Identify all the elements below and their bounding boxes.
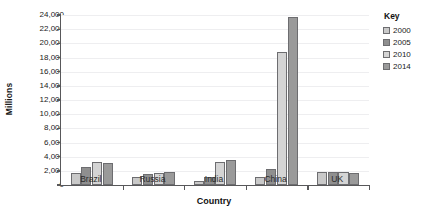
y-tick-mark — [57, 29, 61, 30]
x-category-label: Russia — [122, 174, 184, 184]
legend-items: 2000200520102014 — [383, 25, 428, 72]
legend-item-label: 2000 — [393, 27, 411, 35]
legend-swatch-icon — [383, 39, 390, 46]
legend-item: 2010 — [383, 49, 428, 60]
y-tick-mark — [57, 71, 61, 72]
bar — [288, 17, 298, 185]
legend-item-label: 2010 — [393, 51, 411, 59]
legend-item: 2000 — [383, 25, 428, 36]
y-tick-mark — [57, 43, 61, 44]
y-tick-mark — [57, 114, 61, 115]
y-tick-mark — [57, 170, 61, 171]
x-category-label: India — [183, 174, 245, 184]
legend-item-label: 2014 — [393, 63, 411, 71]
y-tick-mark — [57, 99, 61, 100]
y-tick-mark — [57, 142, 61, 143]
y-tick-mark — [57, 184, 61, 185]
x-axis-title: Country — [60, 196, 368, 206]
legend-item-label: 2005 — [393, 39, 411, 47]
x-tick-mark — [246, 185, 247, 190]
legend-title: Key — [383, 11, 428, 21]
y-tick-mark — [57, 128, 61, 129]
x-category-label: China — [245, 174, 307, 184]
legend-swatch-icon — [383, 27, 390, 34]
bar-group — [194, 15, 237, 185]
y-tick-mark — [57, 14, 61, 15]
plot-area — [60, 15, 369, 186]
bar-group — [132, 15, 175, 185]
clipped-chart-title — [34, 0, 234, 3]
x-tick-mark — [307, 185, 308, 190]
x-tick-mark — [369, 185, 370, 190]
y-tick-mark — [57, 57, 61, 58]
chart-legend: Key 2000200520102014 — [383, 11, 428, 73]
x-tick-mark — [123, 185, 124, 190]
x-tick-mark — [184, 185, 185, 190]
legend-swatch-icon — [383, 51, 390, 58]
bar-chart: Millions 02,0004,0006,0008,00010,00012,0… — [0, 0, 428, 224]
y-axis-title: Millions — [4, 62, 14, 136]
legend-item: 2014 — [383, 61, 428, 72]
bar — [277, 52, 287, 185]
legend-item: 2005 — [383, 37, 428, 48]
bar-group — [71, 15, 114, 185]
legend-swatch-icon — [383, 63, 390, 70]
bar-group — [255, 15, 298, 185]
y-tick-mark — [57, 85, 61, 86]
y-tick-mark — [57, 156, 61, 157]
bar-group — [317, 15, 360, 185]
x-category-label: Brazil — [60, 174, 122, 184]
x-category-label: UK — [306, 174, 368, 184]
